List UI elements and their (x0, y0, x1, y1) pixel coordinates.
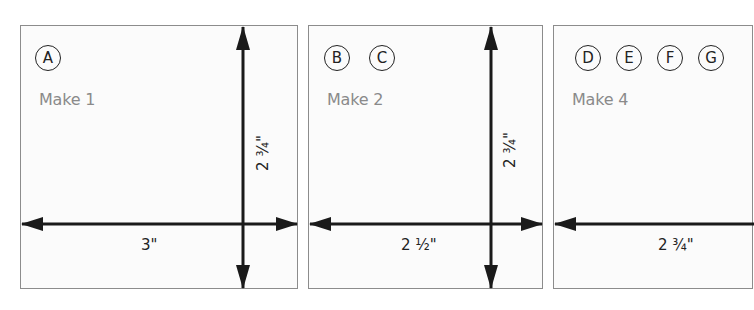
arrow-head-right-icon (276, 217, 298, 231)
arrow-head-down-icon (484, 265, 498, 289)
arrow-head-left-icon (309, 217, 331, 231)
arrow-head-left-icon (21, 217, 43, 231)
width-label: 3" (141, 236, 157, 254)
arrow-head-down-icon (236, 265, 250, 289)
panel-piece-a: A Make 1 3" 2 ¾" (20, 25, 298, 289)
height-label: 2 ¾" (254, 135, 272, 171)
panel-piece-d-e-f-g: D E F G Make 4 2 ¾" (553, 25, 753, 289)
width-label: 2 ¾" (658, 236, 694, 254)
arrow-head-up-icon (236, 26, 250, 50)
arrow-head-right-icon (521, 217, 543, 231)
arrow-head-left-icon (554, 217, 576, 231)
height-label: 2 ¾" (501, 132, 519, 168)
panel-piece-b-c: B C Make 2 2 ½" 2 ¾" (308, 25, 543, 289)
arrow-head-up-icon (484, 26, 498, 50)
width-label: 2 ½" (401, 236, 437, 254)
dimension-arrows (554, 26, 754, 290)
